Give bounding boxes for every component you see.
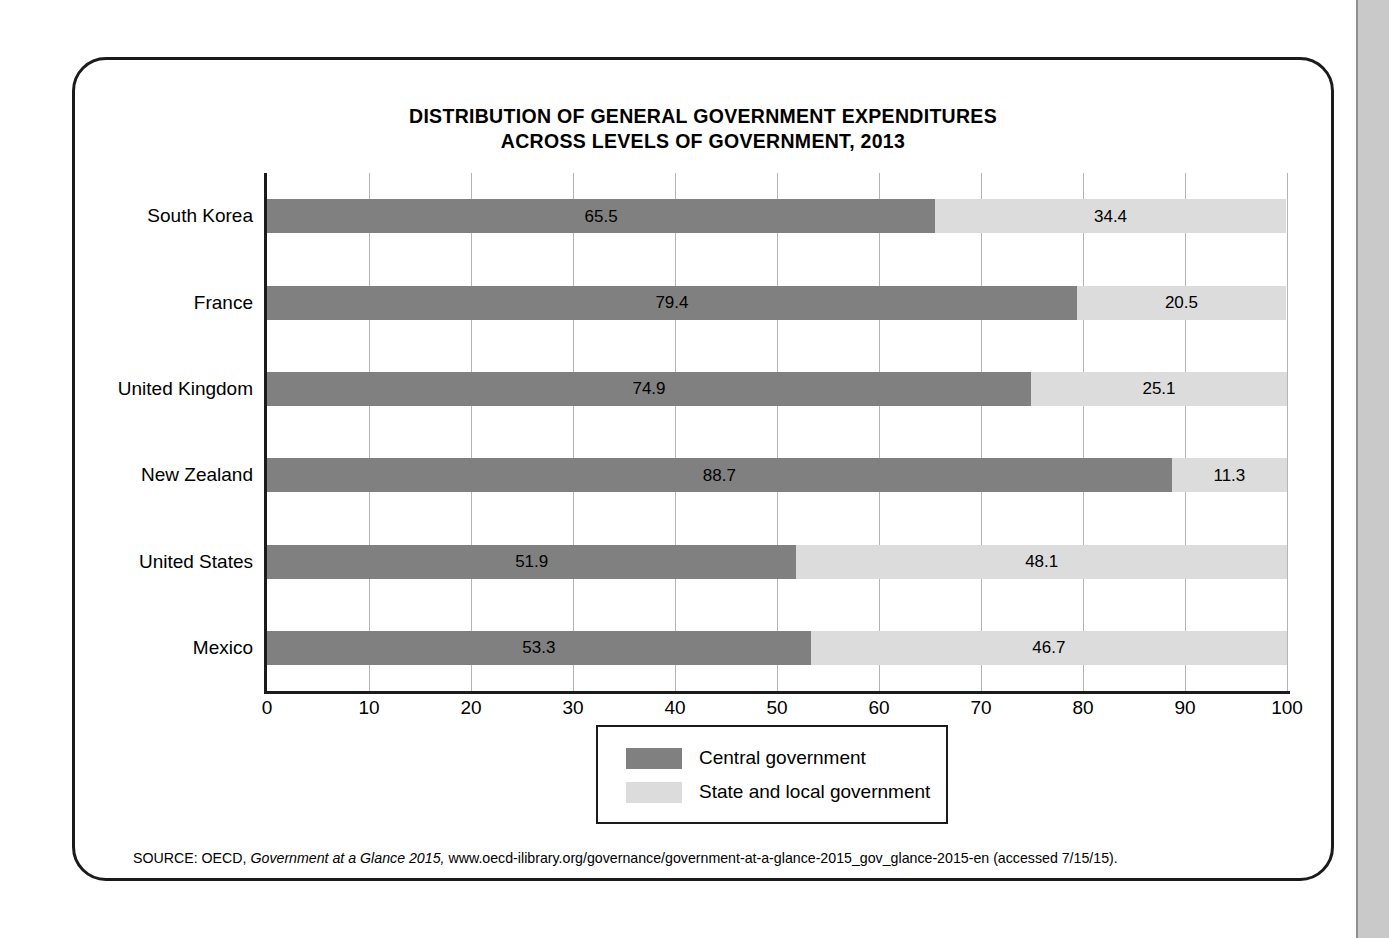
- bar-value-label: 79.4: [655, 294, 688, 311]
- legend-label-local: State and local government: [699, 781, 930, 803]
- gridline: [981, 173, 982, 691]
- x-tick-label: 40: [664, 697, 685, 719]
- legend-label-central: Central government: [699, 747, 866, 769]
- y-axis-line: [264, 173, 267, 691]
- bar-segment-central[interactable]: 65.5: [267, 199, 935, 233]
- x-tick-label: 100: [1271, 697, 1303, 719]
- x-tick-label: 90: [1174, 697, 1195, 719]
- bar-value-label: 88.7: [703, 467, 736, 484]
- bar-segment-local[interactable]: 34.4: [935, 199, 1286, 233]
- chart-title-line-2: ACROSS LEVELS OF GOVERNMENT, 2013: [75, 129, 1331, 154]
- x-tick-label: 10: [358, 697, 379, 719]
- bar-segment-local[interactable]: 48.1: [796, 545, 1287, 579]
- category-label: New Zealand: [0, 458, 253, 492]
- bar-row[interactable]: France79.420.5: [267, 286, 1287, 320]
- bar-value-label: 53.3: [522, 639, 555, 656]
- page-gutter: [1334, 0, 1356, 938]
- gridline: [879, 173, 880, 691]
- bar-row[interactable]: United States51.948.1: [267, 545, 1287, 579]
- bar-segment-local[interactable]: 25.1: [1031, 372, 1287, 406]
- bar-row[interactable]: New Zealand88.711.3: [267, 458, 1287, 492]
- bar-segment-central[interactable]: 79.4: [267, 286, 1077, 320]
- x-tick-label: 20: [460, 697, 481, 719]
- bar-value-label: 51.9: [515, 553, 548, 570]
- gridline: [471, 173, 472, 691]
- x-tick-label: 60: [868, 697, 889, 719]
- gridline: [777, 173, 778, 691]
- category-label: Mexico: [0, 631, 253, 665]
- bar-value-label: 11.3: [1213, 467, 1245, 484]
- gridline: [1185, 173, 1186, 691]
- x-tick-label: 70: [970, 697, 991, 719]
- bar-value-label: 20.5: [1165, 294, 1198, 311]
- chart-title: DISTRIBUTION OF GENERAL GOVERNMENT EXPEN…: [75, 104, 1331, 154]
- bar-row[interactable]: South Korea65.534.4: [267, 199, 1287, 233]
- bar-segment-local[interactable]: 11.3: [1172, 458, 1287, 492]
- bar-value-label: 46.7: [1032, 639, 1065, 656]
- bar-segment-local[interactable]: 20.5: [1077, 286, 1286, 320]
- gridline: [369, 173, 370, 691]
- page-edge-strip: [1356, 0, 1389, 938]
- source-note: SOURCE: OECD, Government at a Glance 201…: [133, 850, 1293, 866]
- bar-segment-central[interactable]: 74.9: [267, 372, 1031, 406]
- x-tick-label: 80: [1072, 697, 1093, 719]
- legend-entry-local: State and local government: [626, 775, 946, 809]
- source-url: www.oecd-ilibrary.org/governance/governm…: [448, 850, 1117, 866]
- bar-segment-central[interactable]: 53.3: [267, 631, 811, 665]
- bar-value-label: 25.1: [1142, 380, 1175, 397]
- figure-frame: DISTRIBUTION OF GENERAL GOVERNMENT EXPEN…: [72, 57, 1334, 881]
- bar-value-label: 74.9: [632, 380, 665, 397]
- gridline: [573, 173, 574, 691]
- bar-segment-central[interactable]: 88.7: [267, 458, 1172, 492]
- category-label: France: [0, 286, 253, 320]
- category-label: United Kingdom: [0, 372, 253, 406]
- x-tick-label: 0: [262, 697, 273, 719]
- x-tick-label: 50: [766, 697, 787, 719]
- x-axis-line: [264, 691, 1290, 694]
- bar-row[interactable]: United Kingdom74.925.1: [267, 372, 1287, 406]
- category-label: South Korea: [0, 199, 253, 233]
- source-prefix: SOURCE: OECD,: [133, 850, 247, 866]
- chart-legend: Central government State and local gover…: [596, 725, 948, 824]
- bar-row[interactable]: Mexico53.346.7: [267, 631, 1287, 665]
- bar-value-label: 48.1: [1025, 553, 1058, 570]
- x-tick-label: 30: [562, 697, 583, 719]
- bar-value-label: 34.4: [1094, 208, 1127, 225]
- chart-title-line-1: DISTRIBUTION OF GENERAL GOVERNMENT EXPEN…: [409, 105, 997, 127]
- gridline: [1083, 173, 1084, 691]
- legend-entry-central: Central government: [626, 741, 946, 775]
- legend-swatch-local-icon: [626, 782, 682, 803]
- source-publication-title: Government at a Glance 2015,: [250, 850, 444, 866]
- gridline: [675, 173, 676, 691]
- gridline: [1287, 173, 1288, 691]
- legend-swatch-central-icon: [626, 748, 682, 769]
- bar-segment-local[interactable]: 46.7: [811, 631, 1287, 665]
- bar-value-label: 65.5: [585, 208, 618, 225]
- plot-area: South Korea65.534.4France79.420.5United …: [267, 173, 1287, 691]
- bar-segment-central[interactable]: 51.9: [267, 545, 796, 579]
- category-label: United States: [0, 545, 253, 579]
